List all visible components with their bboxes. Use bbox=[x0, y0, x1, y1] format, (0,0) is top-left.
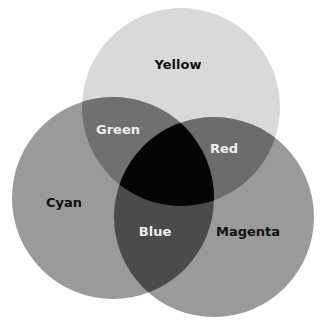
label-magenta: Magenta bbox=[216, 224, 280, 239]
label-blue: Blue bbox=[139, 224, 172, 239]
label-cyan: Cyan bbox=[46, 195, 82, 210]
label-yellow: Yellow bbox=[154, 57, 202, 72]
label-green: Green bbox=[96, 122, 140, 137]
label-red: Red bbox=[210, 141, 238, 156]
venn-diagram: Yellow Green Red Cyan Blue Magenta bbox=[0, 0, 325, 323]
